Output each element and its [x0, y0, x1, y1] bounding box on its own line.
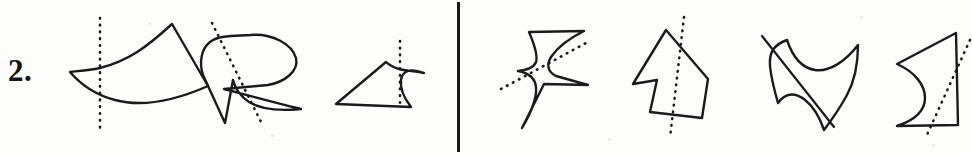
- figure-5[interactable]: [633, 17, 708, 138]
- paper-speck: [271, 134, 274, 137]
- figure-7[interactable]: [897, 33, 970, 137]
- figure-1-outline: [70, 24, 208, 103]
- figure-1[interactable]: [70, 18, 208, 129]
- paper-speck: [608, 138, 611, 141]
- figure-7-dotted-line: [926, 40, 970, 137]
- figure-3-outline: [336, 62, 424, 107]
- figure-3[interactable]: [336, 41, 424, 107]
- figure-6-outline: [770, 40, 858, 130]
- figure-4[interactable]: [501, 31, 588, 128]
- worksheet-problem-row: 2.: [0, 0, 972, 154]
- paper-speck: [932, 144, 935, 147]
- figure-5-outline: [633, 30, 708, 118]
- figure-4-outline: [518, 31, 588, 128]
- figure-5-dotted-line: [670, 17, 684, 138]
- figure-6[interactable]: [762, 36, 858, 130]
- figure-7-outline: [897, 33, 958, 126]
- figures-layer: [0, 0, 972, 154]
- paper-speck: [860, 16, 863, 19]
- figure-2-outline: [201, 35, 301, 123]
- paper-speck: [148, 22, 151, 25]
- figure-2[interactable]: [201, 23, 301, 124]
